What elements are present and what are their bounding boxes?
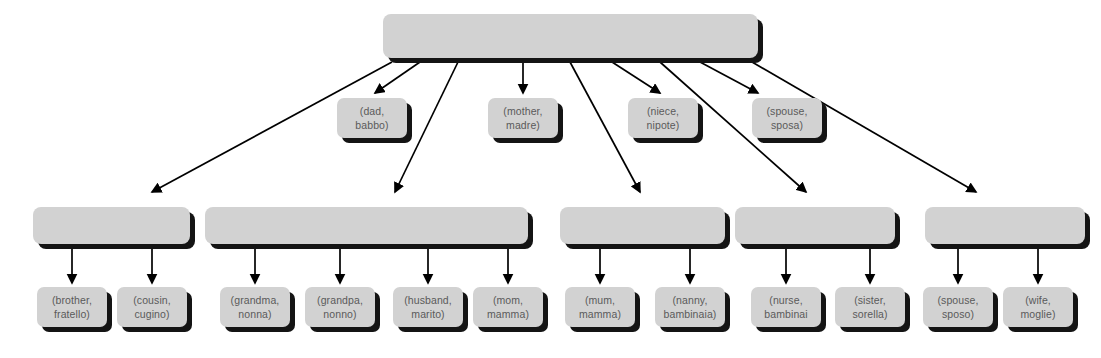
leaf-wife[interactable]: (wife, moglie) bbox=[1003, 287, 1073, 327]
leaf-mother[interactable]: (mother, madre) bbox=[488, 98, 558, 138]
edge-root-to-spouse bbox=[700, 62, 758, 93]
group-node-5[interactable] bbox=[925, 207, 1085, 244]
leaf-mom-line2: mamma) bbox=[487, 307, 529, 321]
leaf-sister-line2: sorella) bbox=[852, 307, 887, 321]
leaf-sister-line1: (sister, bbox=[854, 293, 886, 307]
leaf-grandma-line1: (grandma, bbox=[231, 293, 280, 307]
leaf-niece-line2: nipote) bbox=[647, 118, 680, 132]
leaf-grandma[interactable]: (grandma, nonna) bbox=[220, 287, 290, 327]
leaf-grandpa-line2: nonno) bbox=[323, 307, 356, 321]
leaf-husband-line1: (husband, bbox=[404, 293, 452, 307]
leaf-mum-line2: mamma) bbox=[579, 307, 621, 321]
leaf-dad[interactable]: (dad, babbo) bbox=[337, 98, 407, 138]
leaf-cousin-line2: cugino) bbox=[134, 307, 169, 321]
leaf-nurse[interactable]: (nurse, bambinai bbox=[751, 287, 821, 327]
leaf-spouse-sposo-line2: sposo) bbox=[942, 307, 974, 321]
leaf-cousin[interactable]: (cousin, cugino) bbox=[117, 287, 187, 327]
edge-root-to-niece bbox=[612, 62, 660, 93]
group-node-2[interactable] bbox=[205, 207, 528, 244]
leaf-mother-line2: madre) bbox=[506, 118, 540, 132]
leaf-wife-line2: moglie) bbox=[1020, 307, 1055, 321]
leaf-nanny-line1: (nanny, bbox=[673, 293, 708, 307]
leaf-nurse-line2: bambinai bbox=[764, 307, 807, 321]
leaf-niece[interactable]: (niece, nipote) bbox=[628, 98, 698, 138]
leaf-mother-line1: (mother, bbox=[503, 104, 542, 118]
leaf-niece-line1: (niece, bbox=[647, 104, 679, 118]
leaf-nurse-line1: (nurse, bbox=[769, 293, 802, 307]
leaf-cousin-line1: (cousin, bbox=[133, 293, 171, 307]
leaf-spouse-sposo[interactable]: (spouse, sposo) bbox=[923, 287, 993, 327]
leaf-grandpa-line1: (grandpa, bbox=[317, 293, 363, 307]
leaf-mom[interactable]: (mom, mamma) bbox=[473, 287, 543, 327]
leaf-grandpa[interactable]: (grandpa, nonno) bbox=[305, 287, 375, 327]
leaf-dad-line2: babbo) bbox=[355, 118, 388, 132]
group-node-4[interactable] bbox=[735, 207, 895, 244]
leaf-mum-line1: (mum, bbox=[585, 293, 615, 307]
edge-root-to-dad bbox=[375, 62, 420, 93]
leaf-nanny-line2: bambinaia) bbox=[664, 307, 717, 321]
leaf-brother[interactable]: (brother, fratello) bbox=[37, 287, 107, 327]
leaf-dad-line1: (dad, bbox=[360, 104, 384, 118]
leaf-nanny[interactable]: (nanny, bambinaia) bbox=[655, 287, 725, 327]
leaf-spouse-sposo-line1: (spouse, bbox=[937, 293, 978, 307]
leaf-mum[interactable]: (mum, mamma) bbox=[565, 287, 635, 327]
leaf-husband[interactable]: (husband, marito) bbox=[393, 287, 463, 327]
leaf-mom-line1: (mom, bbox=[493, 293, 523, 307]
group-node-1[interactable] bbox=[33, 207, 190, 244]
leaf-spouse-sposa[interactable]: (spouse, sposa) bbox=[752, 98, 822, 138]
leaf-brother-line2: fratello) bbox=[54, 307, 90, 321]
leaf-brother-line1: (brother, bbox=[52, 293, 92, 307]
leaf-spouse-sposa-line2: sposa) bbox=[771, 118, 803, 132]
leaf-grandma-line2: nonna) bbox=[238, 307, 271, 321]
family-terms-tree-diagram: (dad, babbo) (mother, madre) (niece, nip… bbox=[0, 0, 1101, 358]
root-node[interactable] bbox=[383, 14, 758, 58]
group-node-3[interactable] bbox=[560, 207, 725, 244]
leaf-sister[interactable]: (sister, sorella) bbox=[835, 287, 905, 327]
leaf-spouse-sposa-line1: (spouse, bbox=[766, 104, 807, 118]
leaf-husband-line2: marito) bbox=[411, 307, 444, 321]
leaf-wife-line1: (wife, bbox=[1025, 293, 1051, 307]
